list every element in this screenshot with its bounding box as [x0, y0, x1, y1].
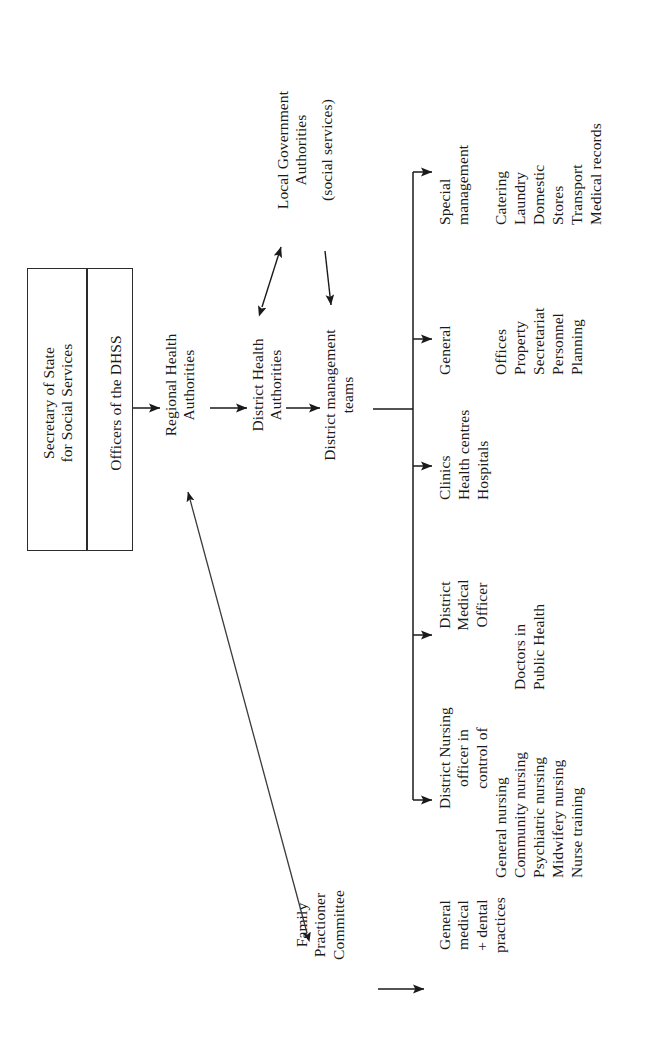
branch-item-laundry: Laundry [511, 25, 529, 225]
node-general-practices: General medical + dental practices [436, 810, 509, 1040]
branch-item-property: Property [511, 205, 529, 375]
branch-item-medical-records: Medical records [587, 25, 605, 225]
branch-heading-special-management: Special management [436, 25, 473, 225]
branch-item-stores: Stores [549, 25, 567, 225]
branch-item-offices: Offices [492, 205, 510, 375]
branch-item-transport: Transport [568, 25, 586, 225]
branch-item-catering: Catering [492, 25, 510, 225]
branch-item-nurse-training: Nurse training [568, 638, 586, 878]
node-local-government-qualifier: (social services) [318, 50, 336, 250]
connector-dha-lga-double [262, 247, 281, 307]
node-local-government-authorities: Local Government Authorities [274, 50, 311, 250]
diagram-canvas: Secretary of State for Social Services O… [0, 0, 665, 1045]
branch-item-health-centres: Health centres [455, 330, 473, 500]
node-dhss-officers: Officers of the DHSS [107, 278, 125, 528]
node-district-management-teams: District management teams [321, 290, 358, 500]
connector-dmt-bus [373, 172, 432, 800]
branch-item-midwifery-nursing: Midwifery nursing [549, 638, 567, 878]
branch-item-domestic: Domestic [530, 25, 548, 225]
node-family-practitioner-committee: Family Practioner Committee [293, 810, 348, 1040]
branch-item-hospitals: Hospitals [474, 330, 492, 500]
connector-fpc-rha-double [188, 492, 307, 933]
branch-item-secretariat: Secretariat [530, 205, 548, 375]
dhss-box-divider [86, 269, 88, 550]
node-secretary-of-state: Secretary of State for Social Services [40, 278, 77, 528]
branch-heading-district-medical-officer: District Medical Officer [436, 520, 491, 690]
branch-item-public-health: Public Health [530, 520, 548, 690]
branch-item-planning: Planning [568, 205, 586, 375]
branch-item-doctors-in: Doctors in [511, 520, 529, 690]
node-district-health-authorities: District Health Authorities [249, 300, 286, 470]
node-regional-health-authorities: Regional Health Authorities [162, 300, 199, 470]
branch-heading-general: General [436, 205, 454, 375]
branch-item-personnel: Personnel [549, 205, 567, 375]
